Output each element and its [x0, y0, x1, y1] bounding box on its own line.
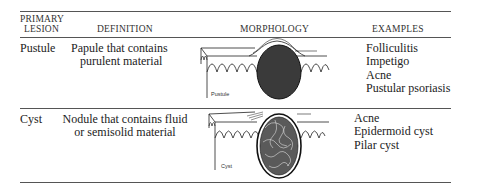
definition: Nodule that contains fluid or semisolid … [60, 113, 190, 139]
morphology-label: Cyst [221, 163, 232, 169]
definition-line: purulent material [66, 55, 176, 68]
table-bottom-rule [20, 182, 451, 183]
header-examples: EXAMPLES [372, 24, 424, 34]
example-item: Folliculitis [366, 42, 450, 55]
header-definition: DEFINITION [97, 24, 153, 34]
header-line: PRIMARY [20, 14, 64, 24]
lesion-name: Cyst [20, 113, 42, 126]
definition-line: or semisolid material [60, 126, 190, 139]
example-item: Epidermoid cyst [354, 125, 433, 138]
example-item: Pustular psoriasis [366, 82, 450, 95]
header-line: LESION [20, 24, 64, 34]
examples-list: Folliculitis Impetigo Acne Pustular psor… [366, 42, 450, 95]
example-item: Acne [366, 69, 450, 82]
example-item: Acne [354, 112, 433, 125]
morphology-label: Pustule [211, 91, 229, 97]
example-item: Impetigo [366, 55, 450, 68]
cyst-illustration: Cyst [205, 108, 335, 180]
header-primary-lesion: PRIMARY LESION [20, 14, 64, 34]
lesion-name: Pustule [20, 42, 55, 55]
examples-list: Acne Epidermoid cyst Pilar cyst [354, 112, 433, 152]
header-morphology: MORPHOLOGY [240, 24, 309, 34]
table-top-rule [20, 11, 451, 12]
definition: Papule that contains purulent material [66, 42, 176, 68]
pustule-illustration: Pustule [195, 38, 335, 100]
example-item: Pilar cyst [354, 139, 433, 152]
